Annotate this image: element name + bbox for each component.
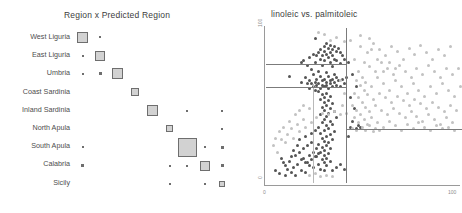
scatter-point [292, 137, 295, 140]
scatter-point [392, 107, 395, 110]
mosaic-row-label: South Apula [0, 137, 74, 155]
scatter-point [294, 154, 297, 157]
scatter-point [308, 154, 311, 157]
scatter-point [455, 109, 458, 112]
matrix-cell [221, 146, 224, 149]
matrix-cell [221, 110, 223, 112]
matrix-cell [95, 51, 105, 61]
y-axis-tick-bottom: 0 [257, 176, 263, 179]
scatter-point [284, 141, 287, 144]
scatter-point [376, 76, 379, 79]
scatter-point [274, 137, 277, 140]
mosaic-row-label: Sicily [0, 174, 74, 192]
scatter-point [439, 123, 442, 126]
scatter-point [437, 106, 440, 109]
scatter-point [439, 76, 442, 79]
scatter-point [433, 118, 436, 121]
scatter-plot-area: 100 0 0 100 [255, 23, 461, 213]
scatter-point [388, 89, 391, 92]
mosaic-panel: Region x Predicted Region West Liguria E… [0, 0, 231, 213]
scatter-point [323, 118, 326, 121]
scatter-point [421, 120, 424, 123]
matrix-cell [77, 32, 88, 43]
scatter-point [427, 64, 430, 67]
scatter-point [308, 164, 311, 167]
scatter-point [327, 99, 330, 102]
scatter-point [325, 157, 328, 160]
scatter-point [321, 121, 324, 124]
scatter-point [419, 44, 422, 47]
scatter-point [276, 151, 279, 154]
scatter-point [349, 39, 352, 42]
x-axis-line [264, 185, 460, 186]
scatter-point [378, 48, 381, 51]
scatter-point [374, 70, 377, 73]
scatter-point [331, 169, 334, 172]
scatter-point [341, 54, 344, 57]
scatter-point [435, 124, 438, 127]
scatter-point [286, 133, 289, 136]
scatter-point [298, 138, 301, 141]
scatter-point [327, 75, 330, 78]
scatter-point [298, 151, 301, 154]
scatter-point [364, 81, 367, 84]
scatter-point [300, 169, 303, 172]
scatter-point [284, 164, 287, 167]
scatter-points-layer [266, 28, 462, 183]
scatter-point [368, 124, 371, 127]
scatter-point [427, 113, 430, 116]
scatter-point [317, 143, 320, 146]
scatter-point [388, 61, 391, 64]
scatter-point [329, 133, 332, 136]
scatter-point [394, 67, 397, 70]
scatter-point [327, 47, 330, 50]
scatter-point [368, 37, 371, 40]
scatter-point [388, 120, 391, 123]
scatter-point [429, 85, 432, 88]
scatter-point [355, 109, 358, 112]
matrix-cell [131, 88, 139, 96]
scatter-point [325, 92, 328, 95]
scatter-point [325, 164, 328, 167]
scatter-point [272, 144, 275, 147]
scatter-point [406, 123, 409, 126]
scatter-point [335, 116, 338, 119]
scatter-point [304, 135, 307, 138]
scatter-point [315, 54, 318, 57]
scatter-point [415, 115, 418, 118]
scatter-point [310, 68, 313, 71]
scatter-point [447, 89, 450, 92]
matrix-cell [186, 110, 188, 112]
scatter-point [329, 44, 332, 47]
scatter-point [315, 116, 318, 119]
scatter-point [280, 138, 283, 141]
scatter-point [392, 73, 395, 76]
scatter-point [331, 65, 334, 68]
matrix-cell [200, 161, 210, 171]
scatter-point [300, 81, 303, 84]
scatter-point [329, 160, 332, 163]
scatter-point [413, 53, 416, 56]
scatter-point [294, 174, 297, 177]
confusion-matrix-plot [74, 28, 231, 193]
scatter-point [298, 109, 301, 112]
scatter-point [294, 113, 297, 116]
scatter-point [341, 104, 344, 107]
scatter-point [339, 113, 342, 116]
scatter-point [423, 95, 426, 98]
scatter-point [335, 50, 338, 53]
scatter-point [323, 129, 326, 132]
mosaic-row-label: East Liguria [0, 46, 74, 64]
scatter-point [394, 124, 397, 127]
partition-line [266, 64, 346, 65]
scatter-point [380, 61, 383, 64]
scatter-point [333, 110, 336, 113]
scatter-point [329, 95, 332, 98]
scatter-point [284, 174, 287, 177]
scatter-point [357, 121, 360, 124]
scatter-point [327, 113, 330, 116]
scatter-point [400, 85, 403, 88]
scatter-point [425, 107, 428, 110]
scatter-point [425, 51, 428, 54]
scatter-point [325, 144, 328, 147]
